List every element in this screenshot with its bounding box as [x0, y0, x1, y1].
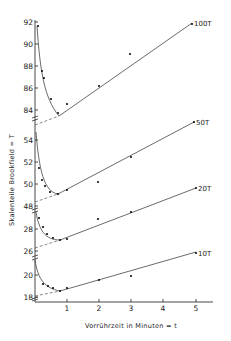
brookfield-chart: 1 2 3 4 5 92 90 88 86 84 54 52 50 48	[0, 0, 231, 341]
y-tick-92: 92	[23, 18, 33, 27]
x-tick-label-3: 3	[129, 304, 134, 313]
x-tick-label-5: 5	[194, 304, 199, 313]
y-tick-28: 28	[23, 225, 33, 234]
y-tick-20: 20	[23, 271, 33, 280]
y-tick-52: 52	[23, 158, 33, 167]
x-tick-label-4: 4	[161, 304, 166, 313]
y-tick-54: 54	[23, 136, 33, 145]
y-tick-48: 48	[23, 202, 33, 211]
y-tick-88: 88	[23, 62, 33, 71]
y-tick-50: 50	[23, 180, 33, 189]
y-tick-26: 26	[23, 247, 33, 256]
x-axis-title: Vorrührzeit in Minuten = t	[85, 322, 177, 330]
series-label-100T: 100T	[194, 20, 212, 28]
y-tick-84: 84	[23, 106, 33, 115]
series-10T: 10T	[35, 250, 212, 296]
series-100T: 100T	[35, 20, 212, 125]
x-tick-label-1: 1	[65, 304, 70, 313]
y-tick-86: 86	[23, 84, 33, 93]
y-tick-90: 90	[23, 40, 33, 49]
series-20T: 20T	[35, 185, 212, 248]
series-label-20T: 20T	[198, 185, 212, 193]
series-label-10T: 10T	[198, 250, 212, 258]
x-tick-label-2: 2	[97, 304, 102, 313]
y-axis-title: Skalenteile Brookfield = T	[8, 134, 16, 226]
axes: 1 2 3 4 5 92 90 88 86 84 54 52 50 48	[8, 18, 213, 330]
y-tick-18: 18	[23, 293, 33, 302]
series-50T: 50T	[35, 119, 210, 202]
series-label-50T: 50T	[196, 119, 210, 127]
